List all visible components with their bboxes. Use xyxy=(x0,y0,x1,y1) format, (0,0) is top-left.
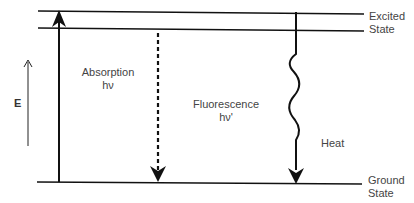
fluorescence-arrow-icon xyxy=(150,33,166,182)
ground-level-line xyxy=(37,182,362,184)
absorption-label-line2: hν xyxy=(78,79,138,92)
fluorescence-label: Fluorescence hν' xyxy=(188,98,264,124)
energy-axis-label: E xyxy=(14,97,21,110)
absorption-arrow-icon xyxy=(52,10,66,182)
heat-label: Heat xyxy=(321,137,344,150)
energy-axis-arrow-icon xyxy=(24,60,32,146)
excited-label-line2: State xyxy=(369,23,405,36)
ground-label-line1: Ground xyxy=(368,174,405,187)
excited-level-upper-line xyxy=(38,11,364,14)
fluorescence-label-line2: hν' xyxy=(188,111,264,124)
excited-level-lower-line xyxy=(38,28,364,31)
absorption-label: Absorption hν xyxy=(78,66,138,92)
heat-arrow-icon xyxy=(288,12,304,184)
excited-label-line1: Excited xyxy=(369,10,405,23)
excited-state-label: Excited State xyxy=(369,10,405,36)
ground-label-line2: State xyxy=(368,187,405,200)
ground-state-label: Ground State xyxy=(368,174,405,200)
fluorescence-label-line1: Fluorescence xyxy=(188,98,264,111)
absorption-label-line1: Absorption xyxy=(78,66,138,79)
